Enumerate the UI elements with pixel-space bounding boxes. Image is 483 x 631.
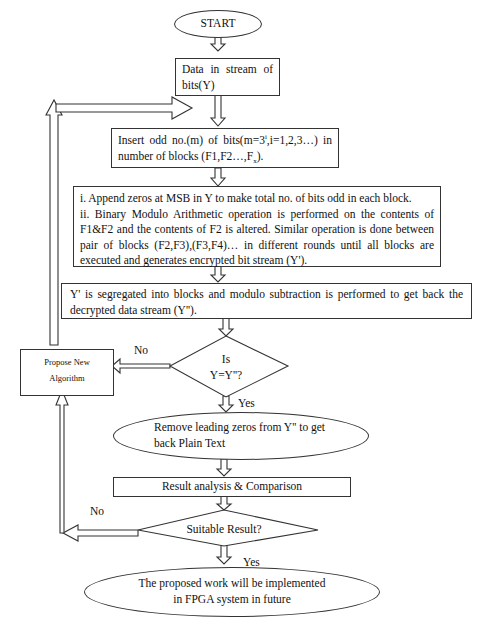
propose-line1: Propose New [27,354,107,370]
start-terminal: START [174,10,262,38]
decision2-no-label: No [90,505,104,517]
decision1-label: Is Y=Y''? [190,352,262,383]
arrow-propose-riser [46,100,62,345]
decision2-text: Suitable Result? [186,523,261,535]
arrow-decision1-yes [219,396,233,412]
decryption-label: Y' is segregated into blocks and modulo … [70,288,463,316]
arrow-start-to-data [211,37,225,51]
decision1-yes-label: Yes [238,397,255,409]
remove-zeros-terminal: Remove leading zeros from Y'' to get bac… [113,412,369,460]
decision1-line1: Is [190,352,262,368]
end-terminal: The proposed work will be implemented in… [84,567,380,617]
decision1-no-label: No [134,344,148,356]
remove-zeros-label: Remove leading zeros from Y'' to get bac… [154,420,328,451]
arrow-result-to-decision2 [217,496,231,510]
result-analysis-label: Result analysis & Comparison [162,479,302,495]
decision1-line2: Y=Y''? [190,368,262,384]
insert-bits-box: Insert odd no.(m) of bits(m=3i,i=1,2,3…)… [111,128,339,168]
propose-algorithm-box: Propose New Algorithm [20,349,114,396]
encryption-step-1: i. Append zeros at MSB in Y to make tota… [80,191,434,207]
arrow-loop-to-data [56,97,192,119]
result-analysis-box: Result analysis & Comparison [113,477,351,497]
data-input-label: Data in stream of bits(Y) [182,63,273,91]
encryption-step-2: ii. Binary Modulo Arithmetic operation i… [80,207,434,269]
arrow-decision2-no [63,525,138,541]
arrow-decision1-no [112,359,170,373]
insert-text-pre: Insert odd no.(m) of bits(m=3 [118,134,265,146]
insert-text-end: ). [257,150,264,162]
decryption-box: Y' is segregated into blocks and modulo … [61,283,472,319]
arrow-remove-to-result [217,459,231,476]
arrow-decrypt-to-decision1 [219,318,233,336]
start-label: START [201,16,236,32]
arrow-insert-to-encrypt [211,168,225,186]
data-input-box: Data in stream of bits(Y) [175,58,280,96]
propose-line2: Algorithm [27,370,107,386]
arrow-riser-to-propose [56,390,68,533]
arrow-decision2-yes [217,545,231,564]
decision2-label: Suitable Result? [174,522,274,538]
encryption-box: i. Append zeros at MSB in Y to make tota… [73,186,441,267]
arrow-data-to-insert [211,95,225,126]
end-label: The proposed work will be implemented in… [135,576,329,607]
